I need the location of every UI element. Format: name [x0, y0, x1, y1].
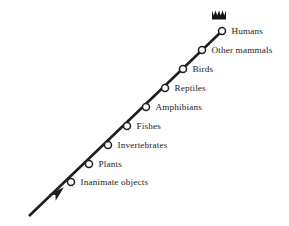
chain-node-marker[interactable] [219, 28, 226, 35]
chain-node-marker[interactable] [199, 47, 206, 54]
chain-node-label: Inanimate objects [81, 177, 149, 187]
chain-node-label: Fishes [137, 121, 162, 131]
crown-icon [212, 11, 226, 20]
chain-node[interactable]: Other mammals [199, 45, 273, 55]
chain-node-label: Reptiles [175, 83, 207, 93]
chain-node-label: Plants [99, 159, 123, 169]
chain-node[interactable]: Birds [180, 64, 214, 74]
crown-shape [212, 11, 226, 20]
chain-node[interactable]: Amphibians [143, 102, 203, 112]
chain-node-marker[interactable] [143, 104, 150, 111]
chain-node-marker[interactable] [68, 179, 75, 186]
chain-node-label: Invertebrates [118, 140, 168, 150]
chain-node-marker[interactable] [86, 161, 93, 168]
chain-node[interactable]: Humans [219, 26, 264, 36]
chain-node-label: Humans [232, 26, 264, 36]
chain-node-marker[interactable] [124, 123, 131, 130]
chain-node[interactable]: Fishes [124, 121, 162, 131]
chain-node-marker[interactable] [180, 66, 187, 73]
chain-node-label: Amphibians [156, 102, 203, 112]
chain-node-marker[interactable] [162, 85, 169, 92]
chain-of-being-canvas: HumansOther mammalsBirdsReptilesAmphibia… [0, 0, 289, 226]
chain-node-label: Birds [193, 64, 214, 74]
chain-node[interactable]: Plants [86, 159, 123, 169]
chain-node[interactable]: Reptiles [162, 83, 207, 93]
chain-node-marker[interactable] [105, 142, 112, 149]
chain-nodes-layer: HumansOther mammalsBirdsReptilesAmphibia… [68, 26, 273, 187]
chain-of-being-figure: HumansOther mammalsBirdsReptilesAmphibia… [0, 0, 289, 226]
chain-node[interactable]: Invertebrates [105, 140, 168, 150]
chain-node-label: Other mammals [212, 45, 273, 55]
chain-node[interactable]: Inanimate objects [68, 177, 149, 187]
